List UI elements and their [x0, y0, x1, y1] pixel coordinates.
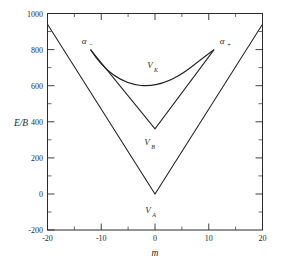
x-tick-label-20: 20 — [259, 234, 267, 243]
y-axis-title: E/B — [13, 118, 28, 128]
y-tick-label-800: 800 — [31, 46, 43, 55]
x-axis-top-ticks — [74, 14, 235, 21]
y-tick-label-minus200: -200 — [28, 226, 43, 235]
annotation-v-a: V A — [145, 205, 156, 218]
alpha-plus-symbol: α — [220, 36, 225, 46]
x-tick-label-0: 0 — [153, 234, 157, 243]
y-axis-ticks — [48, 14, 55, 231]
curve-v-a — [48, 24, 263, 194]
annotation-alpha-plus: α + — [220, 36, 231, 49]
y-axis-right-ticks — [256, 14, 263, 213]
x-axis-title: m — [152, 248, 159, 258]
y-tick-label-0: 0 — [39, 190, 43, 199]
figure-container: 1000 800 600 400 200 0 -200 -20 -10 0 10… — [0, 0, 287, 271]
plot-svg: 1000 800 600 400 200 0 -200 -20 -10 0 10… — [0, 0, 287, 271]
y-tick-labels: 1000 800 600 400 200 0 -200 — [27, 10, 43, 236]
y-tick-label-600: 600 — [31, 82, 43, 91]
v-k-subscript: K — [153, 67, 159, 73]
alpha-minus-subscript: − — [89, 41, 93, 49]
y-tick-label-200: 200 — [31, 154, 43, 163]
x-tick-label-minus10: -10 — [96, 234, 107, 243]
x-tick-label-10: 10 — [205, 234, 213, 243]
annotation-v-b: V B — [144, 137, 155, 150]
annotation-v-k: V K — [147, 60, 159, 73]
y-tick-label-1000: 1000 — [27, 10, 43, 19]
alpha-minus-symbol: α — [82, 36, 87, 46]
x-tick-labels: -20 -10 0 10 20 — [42, 234, 266, 243]
v-b-subscript: B — [151, 144, 155, 150]
v-a-subscript: A — [151, 212, 156, 218]
alpha-plus-subscript: + — [227, 41, 231, 49]
y-tick-label-400: 400 — [31, 118, 43, 127]
x-tick-label-minus20: -20 — [42, 234, 53, 243]
x-axis-ticks — [48, 224, 263, 231]
annotation-alpha-minus: α − — [82, 36, 93, 49]
